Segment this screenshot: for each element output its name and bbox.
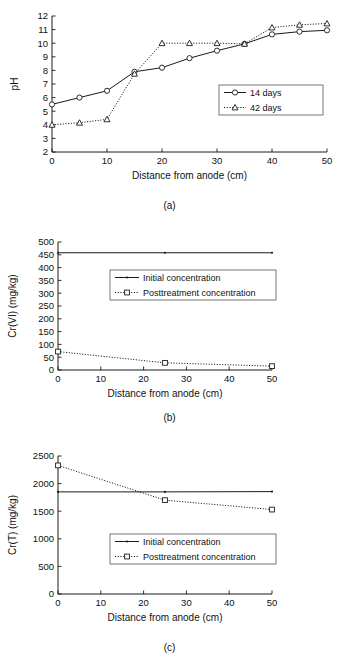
legend-label: Initial concentration <box>143 273 221 283</box>
legend-label: 42 days <box>250 103 282 113</box>
x-axis-title: Distance from anode (cm) <box>107 612 222 623</box>
legend-label: Initial concentration <box>143 537 221 547</box>
svg-text:6: 6 <box>43 92 48 103</box>
svg-text:50: 50 <box>267 597 278 608</box>
series-1 <box>56 349 275 368</box>
legend-label: Posttreatment concentration <box>143 288 256 298</box>
svg-text:12: 12 <box>37 10 48 21</box>
legend: Initial concentrationPosttreatment conce… <box>110 534 276 564</box>
x-axis-title: Distance from anode (cm) <box>107 388 222 399</box>
x-axis-title: Distance from anode (cm) <box>132 170 247 181</box>
svg-text:20: 20 <box>138 597 149 608</box>
panel-c-caption: (c) <box>0 642 339 653</box>
svg-text:10: 10 <box>102 155 113 166</box>
svg-text:450: 450 <box>38 249 54 260</box>
axes <box>52 16 327 152</box>
y-axis-ticks: 23456789101112 <box>37 10 55 157</box>
svg-text:50: 50 <box>322 155 333 166</box>
legend-label: Posttreatment concentration <box>143 552 256 562</box>
svg-text:250: 250 <box>38 300 54 311</box>
svg-text:50: 50 <box>267 373 278 384</box>
svg-text:500: 500 <box>38 561 54 572</box>
chart-c-svg: 0500100015002000250001020304050Distance … <box>0 434 339 642</box>
svg-text:8: 8 <box>43 65 48 76</box>
chart-b-svg: 0501001502002503003504004505000102030405… <box>0 222 339 412</box>
svg-text:20: 20 <box>157 155 168 166</box>
svg-text:11: 11 <box>38 24 48 35</box>
svg-text:0: 0 <box>55 597 60 608</box>
axes <box>58 456 272 594</box>
legend: Initial concentrationPosttreatment conce… <box>110 270 276 300</box>
svg-text:200: 200 <box>38 313 54 324</box>
series-0 <box>57 491 273 493</box>
chart-panel-c: 0500100015002000250001020304050Distance … <box>0 434 339 666</box>
svg-text:30: 30 <box>181 597 192 608</box>
legend-label: 14 days <box>250 88 282 98</box>
svg-text:5: 5 <box>43 106 48 117</box>
svg-text:2: 2 <box>43 146 48 157</box>
svg-text:400: 400 <box>38 262 54 273</box>
svg-text:1500: 1500 <box>33 506 54 517</box>
svg-text:40: 40 <box>224 597 235 608</box>
y-axis-ticks: 05001000150020002500 <box>33 450 62 599</box>
svg-text:1000: 1000 <box>33 533 54 544</box>
svg-text:100: 100 <box>38 339 54 350</box>
svg-text:10: 10 <box>37 38 48 49</box>
panel-b-caption: (b) <box>0 412 339 423</box>
svg-text:50: 50 <box>43 352 54 363</box>
figure-container: 2345678910111201020304050Distance from a… <box>0 0 339 666</box>
svg-text:300: 300 <box>38 288 54 299</box>
svg-text:0: 0 <box>55 373 60 384</box>
legend: 14 days42 days <box>219 85 323 115</box>
svg-text:30: 30 <box>212 155 223 166</box>
svg-text:7: 7 <box>43 78 48 89</box>
svg-text:0: 0 <box>49 588 54 599</box>
svg-text:3: 3 <box>43 133 48 144</box>
panel-a-caption: (a) <box>0 200 339 211</box>
y-axis-title: Cr(T) (mg/kg) <box>7 495 18 555</box>
series-1 <box>56 463 275 512</box>
x-axis-ticks: 01020304050 <box>55 367 277 385</box>
x-axis-ticks: 01020304050 <box>49 149 332 167</box>
svg-text:30: 30 <box>181 373 192 384</box>
svg-text:350: 350 <box>38 275 54 286</box>
chart-panel-a: 2345678910111201020304050Distance from a… <box>0 0 339 222</box>
svg-text:20: 20 <box>138 373 149 384</box>
x-axis-ticks: 01020304050 <box>55 591 277 609</box>
svg-text:10: 10 <box>96 373 107 384</box>
y-axis-title: Cr(VI) (mg/kg) <box>7 274 18 337</box>
svg-text:9: 9 <box>43 51 48 62</box>
svg-text:150: 150 <box>38 326 54 337</box>
chart-a-svg: 2345678910111201020304050Distance from a… <box>0 0 339 200</box>
axes <box>58 242 272 370</box>
y-axis-title: pH <box>9 78 20 91</box>
svg-text:2500: 2500 <box>33 450 54 461</box>
svg-text:10: 10 <box>96 597 107 608</box>
svg-text:0: 0 <box>49 364 54 375</box>
svg-text:4: 4 <box>43 119 48 130</box>
svg-text:40: 40 <box>267 155 278 166</box>
svg-text:2000: 2000 <box>33 478 54 489</box>
series-0 <box>57 252 273 254</box>
chart-panel-b: 0501001502002503003504004505000102030405… <box>0 222 339 434</box>
svg-text:40: 40 <box>224 373 235 384</box>
svg-text:500: 500 <box>38 236 54 247</box>
svg-text:0: 0 <box>49 155 54 166</box>
